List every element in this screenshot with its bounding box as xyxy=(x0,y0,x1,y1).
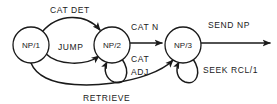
edge-label-jump: JUMP xyxy=(58,42,84,52)
edge-jump xyxy=(45,53,99,63)
node-np3-label: NP/3 xyxy=(174,41,193,50)
edge-label-cat-n: CAT N xyxy=(131,22,159,32)
diagram-canvas: NP/1 NP/2 NP/3 CAT DET JUMP CAT N CAT AD… xyxy=(0,0,277,104)
edge-retrieve xyxy=(31,60,173,85)
edge-label-cat-det: CAT DET xyxy=(50,5,90,15)
edge-label-send-np: SEND NP xyxy=(208,20,250,30)
node-np1-label: NP/1 xyxy=(22,41,41,50)
edge-label-cat-adj-line1: CAT xyxy=(131,54,149,64)
state-transition-diagram: NP/1 NP/2 NP/3 CAT DET JUMP CAT N CAT AD… xyxy=(0,0,277,104)
edge-label-cat-adj-line2: ADJ xyxy=(131,67,149,77)
edge-cat-det xyxy=(42,17,100,32)
edge-label-retrieve: RETRIEVE xyxy=(83,93,130,103)
edge-label-seek-rcl: SEEK RCL/1 xyxy=(203,65,258,75)
node-np2-label: NP/2 xyxy=(103,41,122,50)
